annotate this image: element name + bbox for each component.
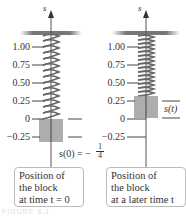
- tick-label: −0.25: [2, 132, 30, 142]
- tick-label: 0.25: [2, 96, 30, 106]
- left-caption-box: Position of the block at time t = 0: [14, 167, 84, 207]
- tick-label: 0: [97, 114, 125, 124]
- axis-arrow-icon: [48, 10, 54, 18]
- caption-line: Position of: [111, 170, 181, 182]
- tick-label: 1.00: [2, 42, 30, 52]
- tick-label: 0.25: [97, 96, 125, 106]
- tick-label: 1.00: [97, 42, 125, 52]
- tick-label: 0.75: [2, 60, 30, 70]
- fraction: 1 4: [96, 143, 104, 160]
- initial-condition: s(0) = −: [59, 148, 91, 159]
- tick-label: 0.50: [97, 78, 125, 88]
- caption-line: at a later time t: [111, 194, 181, 206]
- caption-line: at time t = 0: [19, 194, 79, 206]
- axis-arrow-icon: [143, 10, 149, 18]
- tick-label: −0.25: [97, 132, 125, 142]
- caption-line: the block: [19, 182, 79, 194]
- right-panel: [112, 10, 180, 178]
- axis-label: s: [43, 3, 47, 13]
- position-label: s(t): [164, 103, 177, 114]
- tick-label: 0: [2, 114, 30, 124]
- axis-label: s: [138, 3, 142, 13]
- fraction-denominator: 4: [96, 152, 104, 160]
- right-caption-box: Position of the block at a later time t: [106, 167, 186, 207]
- tick-label: 0.75: [97, 60, 125, 70]
- equation-text: s(0) = −: [59, 148, 91, 159]
- tick-label: 0.50: [2, 78, 30, 88]
- figure-caption: FIGURE 6.1: [2, 208, 50, 215]
- caption-line: the block: [111, 182, 181, 194]
- caption-line: Position of: [19, 170, 79, 182]
